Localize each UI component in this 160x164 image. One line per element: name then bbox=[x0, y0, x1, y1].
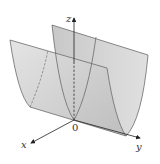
z-axis-label: z bbox=[65, 13, 72, 24]
origin-label: 0 bbox=[72, 122, 78, 133]
x-axis bbox=[31, 120, 74, 143]
parabolic-cylinder-figure: z x y 0 bbox=[0, 0, 160, 164]
x-axis-label: x bbox=[21, 139, 27, 150]
y-axis-label: y bbox=[135, 141, 142, 152]
